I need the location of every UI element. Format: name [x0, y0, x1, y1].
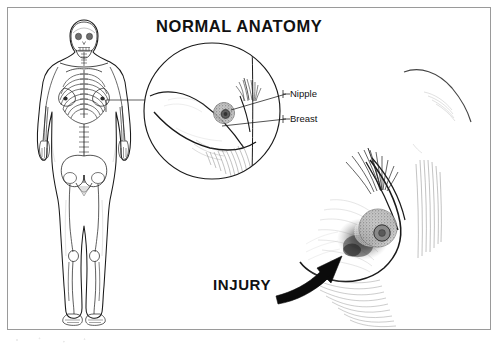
shoulder-contour: [404, 70, 471, 153]
injury-arrow: [276, 256, 342, 304]
normal-breast-detail: [144, 43, 280, 179]
injury-label: INJURY: [213, 277, 271, 292]
page-title: NORMAL ANATOMY: [156, 18, 322, 35]
injured-breast-detail: [276, 148, 441, 327]
nipple-areola-injury: [359, 209, 397, 247]
illustration-artwork: [0, 0, 499, 348]
callout-label-nipple: Nipple: [290, 89, 317, 99]
callout-label-breast: Breast: [290, 114, 317, 124]
illustration-canvas: NORMAL ANATOMY INJURY Nipple Breast: [0, 0, 499, 348]
nipple-areola-normal: [214, 103, 235, 124]
body-figure: [37, 20, 130, 325]
